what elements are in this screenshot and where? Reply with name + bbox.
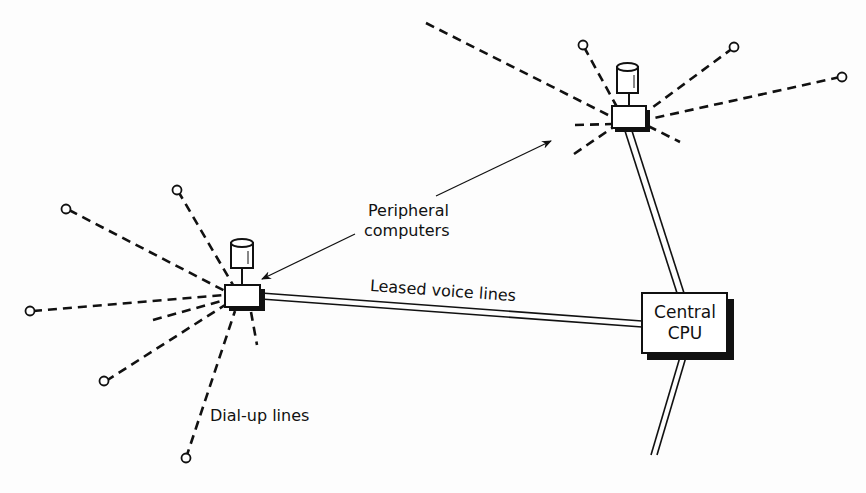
terminal-icon	[100, 377, 109, 386]
network-diagram: Peripheral computers Leased voice lines …	[0, 0, 866, 493]
leased-line-upper-to-cpu	[625, 131, 684, 293]
terminal-icon	[26, 307, 35, 316]
peripheral-computers-label: Peripheral computers	[368, 201, 450, 241]
disk-drive-icon	[617, 63, 638, 93]
cpu-label-line: Central	[642, 302, 728, 323]
dial-up-lines-label: Dial-up lines	[210, 406, 309, 426]
label-line: computers	[364, 221, 450, 241]
diagram-graphics	[0, 0, 866, 493]
terminal-icon	[838, 73, 847, 82]
terminal-icon	[182, 454, 191, 463]
disk-drive-icon	[231, 239, 253, 268]
peripheral-computer-upper	[612, 63, 650, 132]
cpu-label-line: CPU	[642, 323, 728, 344]
terminal-icon	[173, 186, 182, 195]
terminal-icon	[62, 205, 71, 214]
label-line: Peripheral	[368, 201, 450, 221]
central-cpu-label: Central CPU	[642, 302, 728, 344]
peripheral-computer-lower	[225, 239, 265, 311]
terminal-icon	[579, 41, 588, 50]
leased-line-cpu-down	[651, 357, 686, 455]
dialup-terminals	[26, 41, 847, 463]
terminal-icon	[730, 43, 739, 52]
